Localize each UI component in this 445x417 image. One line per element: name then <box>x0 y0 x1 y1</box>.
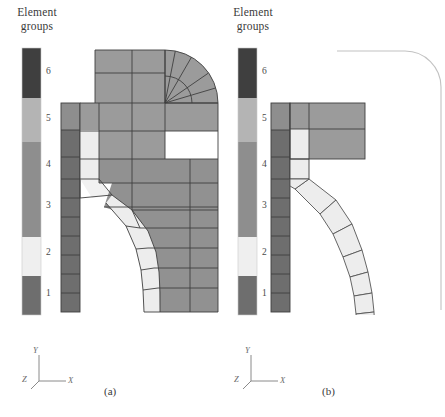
legend-b-tick-4: 4 <box>262 159 267 169</box>
legend-a-tick-2: 2 <box>46 247 51 257</box>
axis-a-z-label: Z <box>22 374 27 384</box>
legend-title-b-line2: groups <box>237 20 270 32</box>
legend-b-tick-2: 2 <box>262 247 267 257</box>
legend-a-tick-6: 6 <box>46 66 51 76</box>
legend-a-tick-3: 3 <box>46 200 51 210</box>
panel-b-curved-shell <box>290 179 375 335</box>
axis-b-y-label: Y <box>245 345 250 355</box>
legend-title-b: Elementgroups <box>222 6 284 33</box>
axis-triad-b <box>243 355 278 389</box>
legend-b-tick-5: 5 <box>262 113 267 123</box>
legend-title-a-line2: groups <box>21 20 54 32</box>
legend-b-tick-1: 1 <box>262 288 267 298</box>
axis-a-y-label: Y <box>33 345 38 355</box>
legend-colorbar-a <box>22 48 41 315</box>
panel-b-left-column <box>271 103 290 312</box>
legend-b-tick-3: 3 <box>262 200 267 210</box>
axis-b-z-label: Z <box>234 374 239 384</box>
panel-b-mesh <box>271 51 441 335</box>
panel-a-lower-shell <box>106 195 218 312</box>
panel-a-mesh <box>61 50 218 312</box>
panel-b-upper-flange <box>290 103 365 179</box>
figure-root: Elementgroups Elementgroups 6 5 4 3 2 1 … <box>0 0 445 417</box>
legend-a-tick-5: 5 <box>46 113 51 123</box>
legend-colorbar-b <box>238 48 257 315</box>
legend-title-a: Elementgroups <box>6 6 68 33</box>
legend-a-tick-4: 4 <box>46 159 51 169</box>
axis-triad-a <box>31 355 66 389</box>
legend-title-b-line1: Element <box>233 6 273 18</box>
legend-title-a-line1: Element <box>17 6 57 18</box>
panel-a-left-column <box>61 103 80 312</box>
panel-caption-b: (b) <box>322 385 335 397</box>
axis-a-x-label: X <box>68 375 73 385</box>
figure-canvas <box>0 0 445 417</box>
legend-a-tick-1: 1 <box>46 288 51 298</box>
legend-b-tick-6: 6 <box>262 66 267 76</box>
axis-b-x-label: X <box>280 375 285 385</box>
panel-caption-a: (a) <box>104 385 116 397</box>
